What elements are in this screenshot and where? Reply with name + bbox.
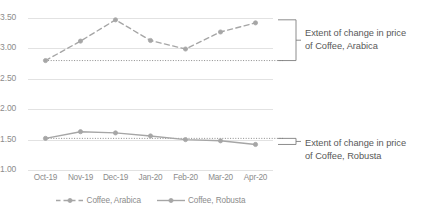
legend-entry-arabica[interactable]: Coffee, Arabica (56, 196, 141, 205)
data-point (148, 38, 152, 42)
data-point (183, 47, 187, 51)
legend-label-arabica: Coffee, Arabica (87, 196, 141, 205)
data-point (253, 21, 257, 25)
legend-marker-robusta (169, 198, 173, 202)
legend: Coffee, ArabicaCoffee, Robusta (28, 191, 273, 209)
annotation-arabica-line2: of Coffee, Arabica (305, 40, 423, 53)
data-point (183, 138, 187, 142)
annotation-robusta: Extent of change in price of Coffee, Rob… (305, 137, 423, 162)
legend-swatch-arabica (56, 196, 84, 205)
data-point (43, 136, 47, 140)
data-point (43, 58, 47, 62)
bracket-arabica (278, 20, 296, 61)
annotation-arabica-line1: Extent of change in price (305, 27, 423, 40)
annotation-robusta-line2: of Coffee, Robusta (305, 150, 423, 163)
data-point (253, 142, 257, 146)
data-point (78, 39, 82, 43)
data-point (218, 30, 222, 34)
legend-swatch-robusta (157, 196, 185, 205)
data-point (148, 134, 152, 138)
legend-label-robusta: Coffee, Robusta (188, 196, 246, 205)
bracket-robusta (278, 138, 296, 144)
data-point (218, 139, 222, 143)
data-point (113, 131, 117, 135)
coffee-price-chart: 1.001.502.002.503.003.50 Oct-19Nov-19Dec… (0, 0, 426, 221)
annotation-arabica: Extent of change in price of Coffee, Ara… (305, 27, 423, 52)
legend-entry-robusta[interactable]: Coffee, Robusta (157, 196, 246, 205)
legend-marker-arabica (67, 198, 71, 202)
annotation-robusta-line1: Extent of change in price (305, 137, 423, 150)
data-point (113, 18, 117, 22)
data-point (78, 130, 82, 134)
